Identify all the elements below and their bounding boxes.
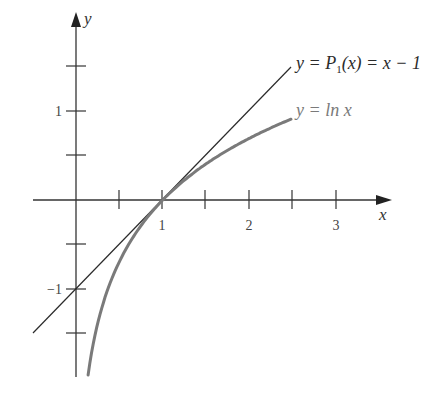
x-axis-arrow-icon [376, 195, 392, 205]
x-axis-label: x [378, 205, 387, 224]
ln-label: y = ln x [294, 100, 352, 120]
y-axis-arrow-icon [71, 12, 81, 27]
x-tick-label-1: 1 [159, 218, 166, 233]
y-tick-label-neg1: −1 [47, 282, 62, 297]
ln-curve [88, 119, 291, 375]
y-tick-label-1: 1 [55, 104, 62, 119]
x-tick-label-2: 2 [246, 218, 253, 233]
chart-figure: 1 2 3 1 −1 x y y = P1(x) = x − 1 y = ln … [0, 0, 448, 397]
p1-label: y = P1(x) = x − 1 [294, 53, 421, 75]
y-axis-label: y [82, 9, 92, 28]
x-tick-label-3: 3 [333, 218, 340, 233]
